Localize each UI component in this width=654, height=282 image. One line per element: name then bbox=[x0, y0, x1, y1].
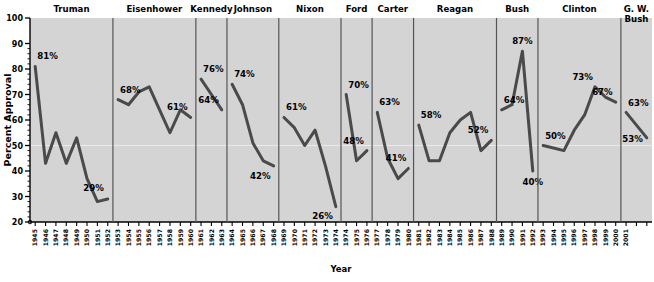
value-annotation: 26% bbox=[312, 211, 333, 221]
panel-label-1: Eisenhower bbox=[126, 4, 183, 14]
x-axis-tick-label: 2000 bbox=[612, 228, 619, 246]
panel-label-3: Johnson bbox=[233, 4, 272, 14]
value-annotation: 64% bbox=[504, 95, 525, 105]
value-annotation: 48% bbox=[343, 136, 364, 146]
value-annotation: 87% bbox=[512, 36, 533, 46]
x-axis-title: Year bbox=[329, 264, 352, 274]
x-axis-tick-label: 1982 bbox=[425, 229, 432, 246]
x-axis-tick-label: 1981 bbox=[415, 229, 422, 246]
x-axis-tick-label: 1963 bbox=[218, 229, 225, 246]
x-axis-tick-label: 1954 bbox=[125, 228, 132, 246]
y-axis-tick-label: 50 bbox=[12, 142, 24, 151]
x-axis-tick-label: 1964 bbox=[228, 228, 235, 246]
value-annotation: 81% bbox=[37, 51, 58, 61]
value-annotation: 53% bbox=[622, 134, 643, 144]
x-axis-tick-label: 1965 bbox=[239, 229, 246, 246]
x-axis-tick-label: 1966 bbox=[249, 229, 256, 246]
x-axis-tick-label: 1984 bbox=[446, 228, 453, 246]
x-axis-tick-label: 1960 bbox=[187, 228, 194, 246]
x-axis-tick-label: 1985 bbox=[456, 229, 463, 246]
panel-label-9: Clinton bbox=[562, 4, 596, 14]
x-axis-tick-label: 1948 bbox=[62, 229, 69, 246]
x-axis-tick-label: 1992 bbox=[529, 229, 536, 246]
x-axis-tick-label: 1968 bbox=[270, 229, 277, 246]
value-annotation: 73% bbox=[572, 72, 593, 82]
value-annotation: 74% bbox=[234, 69, 255, 79]
panel-label-2: Kennedy bbox=[190, 4, 233, 14]
x-axis-tick-label: 1958 bbox=[166, 229, 173, 246]
panel-label-10: G. W. bbox=[624, 4, 649, 14]
x-axis-tick-label: 1993 bbox=[539, 229, 546, 246]
value-annotation: 29% bbox=[83, 183, 104, 193]
x-axis-tick-label: 1956 bbox=[145, 229, 152, 246]
value-annotation: 61% bbox=[286, 102, 307, 112]
x-axis-tick-label: 1946 bbox=[42, 229, 49, 246]
value-annotation: 76% bbox=[203, 64, 224, 74]
x-axis-tick-label: 1998 bbox=[591, 229, 598, 246]
panel-label-10-line2: Bush bbox=[624, 14, 648, 24]
value-annotation: 52% bbox=[468, 125, 489, 135]
y-axis-tick-label: 90 bbox=[12, 40, 24, 49]
x-axis-tick-label: 1973 bbox=[322, 229, 329, 246]
x-axis-tick-label: 1955 bbox=[135, 229, 142, 246]
x-axis-tick-label: 1996 bbox=[570, 229, 577, 246]
x-axis-tick-label: 1999 bbox=[602, 229, 609, 246]
x-axis-tick-label: 1975 bbox=[353, 229, 360, 246]
x-axis-tick-label: 1995 bbox=[560, 229, 567, 246]
x-axis-tick-label: 1970 bbox=[291, 228, 298, 246]
x-axis-tick-label: 2001 bbox=[622, 229, 629, 246]
x-axis-tick-label: 1952 bbox=[104, 229, 111, 246]
y-axis-tick-label: 30 bbox=[12, 193, 24, 202]
presidential-approval-chart: 1009080706050403020Percent ApprovalYearT… bbox=[0, 0, 654, 282]
x-axis-tick-label: 1974 bbox=[332, 228, 339, 246]
x-axis-tick-label: 1983 bbox=[436, 229, 443, 246]
panel-label-0: Truman bbox=[53, 4, 89, 14]
y-axis-tick-label: 60 bbox=[12, 116, 24, 125]
x-axis-tick-label: 1969 bbox=[280, 229, 287, 246]
x-axis-tick-label: 1977 bbox=[373, 229, 380, 246]
panel-label-6: Carter bbox=[378, 4, 409, 14]
x-axis-tick-label: 1953 bbox=[114, 229, 121, 246]
y-axis-tick-label: 80 bbox=[12, 65, 24, 74]
x-axis-tick-label: 1967 bbox=[259, 229, 266, 246]
x-axis-tick-label: 1989 bbox=[498, 229, 505, 246]
x-axis-tick-label: 1959 bbox=[177, 229, 184, 246]
x-axis-tick-label: 1990 bbox=[508, 228, 515, 246]
value-annotation: 58% bbox=[421, 110, 442, 120]
value-annotation: 42% bbox=[250, 171, 271, 181]
value-annotation: 68% bbox=[120, 85, 141, 95]
x-axis-tick-label: 1997 bbox=[581, 229, 588, 246]
x-axis-tick-label: 1974 bbox=[342, 228, 349, 246]
y-axis-tick-label: 20 bbox=[12, 218, 24, 227]
value-annotation: 64% bbox=[198, 95, 219, 105]
value-annotation: 63% bbox=[628, 98, 649, 108]
value-annotation: 70% bbox=[348, 80, 369, 90]
x-axis-tick-label: 1945 bbox=[31, 229, 38, 246]
y-axis-tick-label: 70 bbox=[12, 91, 24, 100]
panel-label-7: Reagan bbox=[437, 4, 473, 14]
value-annotation: 40% bbox=[522, 177, 543, 187]
x-axis-tick-label: 1978 bbox=[384, 229, 391, 246]
x-axis-tick-label: 1962 bbox=[208, 229, 215, 246]
x-axis-tick-label: 1994 bbox=[550, 228, 557, 246]
x-axis-tick-label: 1961 bbox=[197, 229, 204, 246]
panel-label-5: Ford bbox=[346, 4, 368, 14]
value-annotation: 61% bbox=[167, 102, 188, 112]
x-axis-tick-label: 1950 bbox=[83, 228, 90, 246]
x-axis-tick-label: 1957 bbox=[156, 229, 163, 246]
x-axis-tick-label: 1972 bbox=[311, 229, 318, 246]
y-axis-tick-label: 40 bbox=[12, 167, 24, 176]
x-axis-tick-label: 1951 bbox=[94, 229, 101, 246]
value-annotation: 41% bbox=[386, 153, 407, 163]
value-annotation: 50% bbox=[545, 131, 566, 141]
x-axis-tick-label: 1986 bbox=[467, 229, 474, 246]
x-axis-tick-label: 1976 bbox=[363, 229, 370, 246]
value-annotation: 67% bbox=[592, 87, 613, 97]
x-axis-tick-label: 1988 bbox=[488, 229, 495, 246]
x-axis-tick-label: 1987 bbox=[477, 229, 484, 246]
x-axis-tick-label: 1991 bbox=[519, 229, 526, 246]
x-axis-tick-label: 1971 bbox=[301, 229, 308, 246]
x-axis-tick-label: 1980 bbox=[405, 228, 412, 246]
value-annotation: 63% bbox=[379, 97, 400, 107]
panel-label-4: Nixon bbox=[296, 4, 324, 14]
